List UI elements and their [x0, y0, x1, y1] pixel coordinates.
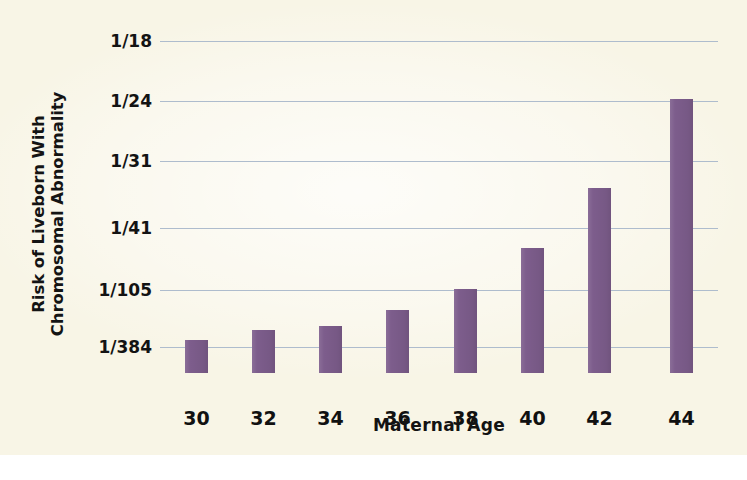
bar — [252, 330, 275, 373]
bar — [588, 188, 611, 373]
bar — [454, 289, 477, 373]
bar — [386, 310, 409, 373]
bar — [319, 326, 342, 373]
y-axis-title-line-2: Chromosomal Abnormality — [48, 92, 67, 337]
chart-figure: Risk of Liveborn With Chromosomal Abnorm… — [0, 0, 747, 480]
y-axis-tick-label: 1/18 — [110, 31, 152, 51]
y-axis-tick-label: 1/105 — [98, 280, 152, 300]
y-axis-title-line-1: Risk of Liveborn With — [29, 115, 48, 312]
bar — [521, 248, 544, 373]
y-axis-tick-label: 1/24 — [110, 91, 152, 111]
y-axis-title: Risk of Liveborn With Chromosomal Abnorm… — [20, 18, 76, 410]
x-axis-title: Maternal Age — [160, 415, 718, 435]
y-axis-tick-label: 1/31 — [110, 151, 152, 171]
bars-group — [160, 30, 718, 373]
y-axis-tick-label: 1/41 — [110, 218, 152, 238]
y-axis-tick-label: 1/384 — [98, 337, 152, 357]
bar — [185, 340, 208, 373]
plot-area: 1/181/241/311/411/1051/384 3032343638404… — [160, 30, 718, 373]
bar — [670, 99, 693, 373]
